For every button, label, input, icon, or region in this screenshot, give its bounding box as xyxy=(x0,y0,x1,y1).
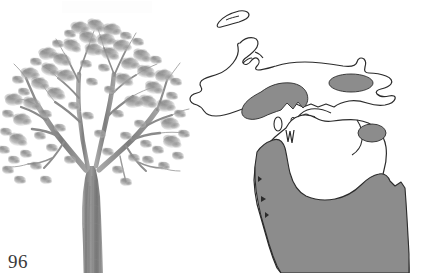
map-shaded-range-up-east xyxy=(329,74,373,92)
book-page: 96 xyxy=(0,0,424,273)
map-region-isle-royale xyxy=(217,11,249,28)
tree-illustration xyxy=(0,10,190,273)
map-shaded-range-northeast-lp xyxy=(358,124,386,142)
michigan-range-map xyxy=(185,0,424,273)
page-number: 96 xyxy=(8,252,28,272)
